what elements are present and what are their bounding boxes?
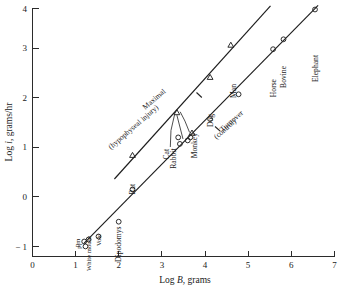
label-vole: Vole [95,234,102,246]
x-tick-label-7: 7 [332,260,337,270]
leader-monkey [180,112,189,133]
label-pl: Pl [76,243,83,249]
x-tick-labels: 0 1 2 3 4 5 6 7 [30,260,337,270]
trend-line-turnover-control [84,5,318,243]
y-tick-labels: 4 3 2 1 0 − 1 [15,4,27,252]
x-tick-label-4: 4 [203,260,208,270]
y-tick-label-neg1: − 1 [15,242,27,252]
y-axis-title: Log i, grams/hr [4,102,14,162]
y-tick-label-3: 3 [23,43,28,53]
x-tick-label-0: 0 [30,260,35,270]
annotations-group: Maximal (hypophyseal injury) Turnover (c… [106,87,245,151]
annotation-maximal-line2: (hypophyseal injury) [106,102,160,151]
label-dog: Dog [206,114,215,127]
label-dipodomys: Dipodomys [114,226,123,261]
label-monkey: Monkey [190,133,199,159]
x-tick-label-1: 1 [73,260,78,270]
y-axis-title-prefix: Log [4,144,14,162]
y-tick-label-4: 4 [23,4,28,14]
x-axis-title: Log B, grams [159,275,211,285]
label-cat: Cat [162,148,171,159]
point-labels-group: Pm Pl White mouse Vole Dipodomys Rat Rab… [74,54,320,271]
point-cat [176,135,181,140]
label-bovine: Bovine [279,65,288,88]
label-horse: Horse [269,78,278,97]
plot-canvas: 4 3 2 1 0 − 1 0 1 2 3 4 5 6 7 Log B, gra… [0,0,341,288]
label-elephant: Elephant [311,54,320,82]
point-rat-upper [130,152,136,157]
x-axis-title-suffix: , grams [183,275,211,285]
label-rat: Rat [128,183,137,194]
y-tick-label-2: 2 [23,93,28,103]
trend-lines-group [84,5,318,243]
series-turnover-markers [82,7,318,249]
point-man [228,42,234,47]
leader-cat [170,115,174,148]
label-man: Man [229,84,238,98]
label-white-mouse: White mouse [85,236,92,271]
y-tick-label-0: 0 [23,192,28,202]
pointer-maximal [197,93,202,98]
x-axis-title-prefix: Log [159,275,177,285]
point-dipodomys [116,219,121,224]
x-tick-marks [33,251,335,257]
y-axis-title-suffix: , grams/hr [4,102,14,141]
scatter-plot-figure: 4 3 2 1 0 − 1 0 1 2 3 4 5 6 7 Log B, gra… [0,0,341,288]
y-tick-marks [33,9,39,247]
x-tick-label-5: 5 [246,260,251,270]
y-tick-label-1: 1 [23,142,28,152]
axes-group [33,8,335,257]
x-tick-label-6: 6 [289,260,294,270]
x-tick-label-3: 3 [160,260,165,270]
